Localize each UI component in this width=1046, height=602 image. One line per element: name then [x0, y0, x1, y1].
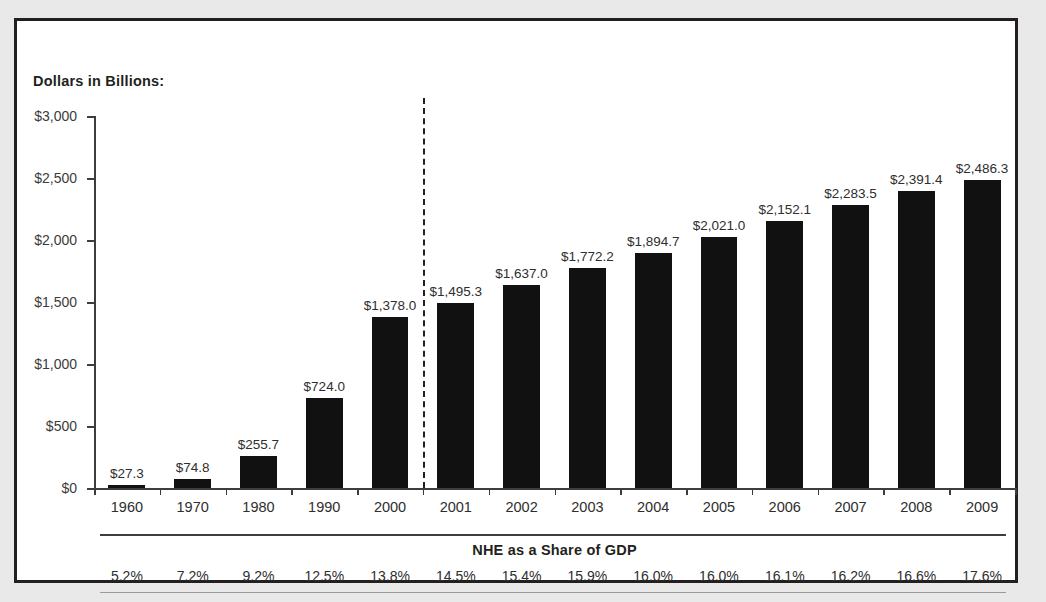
x-axis-tick [423, 488, 425, 495]
bar [569, 268, 606, 488]
y-axis-tick: $500 [87, 426, 94, 428]
x-axis-category-label: 2002 [505, 499, 537, 515]
bar [240, 456, 277, 488]
bar-value-label: $2,391.4 [890, 172, 943, 187]
gdp-share-value: 17.6% [962, 568, 1002, 584]
y-axis-tick: $1,000 [87, 364, 94, 366]
bar-value-label: $2,283.5 [824, 186, 877, 201]
x-axis-tick [752, 488, 754, 495]
x-axis-category-label: 2003 [571, 499, 603, 515]
y-axis-tick-label: $2,500 [34, 170, 77, 186]
x-axis-tick [555, 488, 557, 495]
gdp-band-bottom-rule [100, 592, 1006, 593]
gdp-band-heading: NHE as a Share of GDP [94, 542, 1015, 558]
gdp-share-value: 16.0% [633, 568, 673, 584]
bar [306, 398, 343, 488]
bar-value-label: $74.8 [176, 460, 210, 475]
y-axis-title: Dollars in Billions: [33, 73, 164, 89]
x-axis-category-label: 2000 [374, 499, 406, 515]
x-axis-tick [818, 488, 820, 495]
x-axis-category-label: 2004 [637, 499, 669, 515]
bar-value-label: $2,486.3 [956, 161, 1009, 176]
bar [108, 485, 145, 488]
x-axis-tick [94, 488, 96, 495]
x-axis-category-label: 2008 [900, 499, 932, 515]
bar [174, 479, 211, 488]
y-axis-tick: $2,000 [87, 240, 94, 242]
bar [898, 191, 935, 488]
y-axis-tick-label: $0 [61, 480, 77, 496]
x-axis-category-label: 2007 [834, 499, 866, 515]
bar [437, 303, 474, 488]
chart-frame: Dollars in Billions: $3,000$2,500$2,000$… [14, 18, 1018, 583]
x-axis-tick [883, 488, 885, 495]
y-axis-line [94, 116, 96, 488]
gdp-share-value: 14.5% [436, 568, 476, 584]
bar [964, 180, 1001, 488]
bar-value-label: $1,378.0 [364, 298, 417, 313]
x-axis-tick [489, 488, 491, 495]
x-axis-tick [686, 488, 688, 495]
gdp-share-value: 12.5% [304, 568, 344, 584]
x-axis-category-label: 2005 [703, 499, 735, 515]
bar [766, 221, 803, 488]
x-axis-tick [226, 488, 228, 495]
gdp-share-value: 16.0% [699, 568, 739, 584]
y-axis-tick: $3,000 [87, 116, 94, 118]
y-axis-tick-label: $3,000 [34, 108, 77, 124]
y-axis-tick-label: $1,000 [34, 356, 77, 372]
x-axis-tick [291, 488, 293, 495]
bar-value-label: $2,152.1 [758, 202, 811, 217]
x-axis-category-label: 2006 [769, 499, 801, 515]
bar-value-label: $27.3 [110, 466, 144, 481]
x-axis-tick [357, 488, 359, 495]
gdp-share-value: 15.4% [502, 568, 542, 584]
bar-value-label: $1,772.2 [561, 249, 614, 264]
bar-value-label: $724.0 [304, 379, 345, 394]
gdp-share-value: 9.2% [242, 568, 274, 584]
projection-divider-line [423, 98, 425, 488]
x-axis-category-label: 1990 [308, 499, 340, 515]
y-axis-tick: $0 [87, 488, 94, 490]
x-axis-category-label: 1970 [177, 499, 209, 515]
bar-value-label: $1,637.0 [495, 266, 548, 281]
y-axis-tick: $2,500 [87, 178, 94, 180]
bar-value-label: $1,894.7 [627, 234, 680, 249]
gdp-share-value: 16.2% [831, 568, 871, 584]
x-axis-category-label: 2009 [966, 499, 998, 515]
x-axis-tick [1015, 488, 1017, 495]
gdp-share-value: 16.1% [765, 568, 805, 584]
x-axis-tick [949, 488, 951, 495]
gdp-share-value: 15.9% [568, 568, 608, 584]
y-axis-tick-label: $1,500 [34, 294, 77, 310]
y-axis-tick-label: $500 [46, 418, 77, 434]
bar-value-label: $255.7 [238, 437, 279, 452]
gdp-share-value: 7.2% [177, 568, 209, 584]
gdp-share-value: 13.8% [370, 568, 410, 584]
x-axis-tick [160, 488, 162, 495]
x-axis-category-label: 1960 [111, 499, 143, 515]
x-axis-tick [620, 488, 622, 495]
x-axis-category-label: 1980 [242, 499, 274, 515]
bar [635, 253, 672, 488]
bar [372, 317, 409, 488]
bar [701, 237, 738, 488]
bar [503, 285, 540, 488]
gdp-share-value: 16.6% [896, 568, 936, 584]
plot-area: $3,000$2,500$2,000$1,500$1,000$500$0 $27… [94, 116, 1015, 488]
gdp-share-value: 5.2% [111, 568, 143, 584]
bar [832, 205, 869, 488]
bar-value-label: $2,021.0 [693, 218, 746, 233]
y-axis-tick: $1,500 [87, 302, 94, 304]
y-axis-tick-label: $2,000 [34, 232, 77, 248]
gdp-band-top-rule [100, 534, 1006, 536]
x-axis-category-label: 2001 [440, 499, 472, 515]
bar-value-label: $1,495.3 [430, 284, 483, 299]
